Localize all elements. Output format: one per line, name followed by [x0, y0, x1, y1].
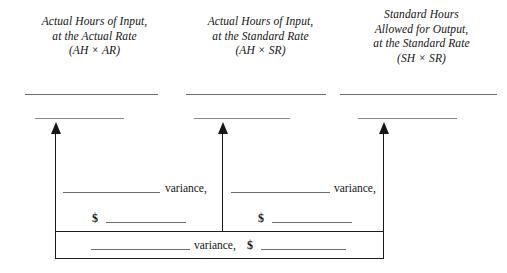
amount-blank-line-col1[interactable]: [35, 118, 124, 119]
arrow-shaft-col1: [55, 133, 56, 231]
total-variance-amount-blank[interactable]: [261, 249, 346, 250]
left-variance-label: variance,: [165, 182, 207, 195]
column-header-line: at the Standard Rate: [178, 29, 343, 44]
bracket-middle-divider: [55, 231, 384, 232]
column-header-actual-hours-actual-rate: Actual Hours of Input, at the Actual Rat…: [12, 14, 177, 58]
column-header-actual-hours-standard-rate: Actual Hours of Input, at the Standard R…: [178, 14, 343, 58]
column-header-line: Standard Hours: [339, 7, 504, 22]
left-variance-amount-blank[interactable]: [106, 222, 186, 223]
amount-blank-line-col2[interactable]: [194, 118, 290, 119]
right-variance-amount-blank[interactable]: [272, 222, 352, 223]
right-variance-name-blank[interactable]: [231, 192, 330, 193]
column-header-line: Allowed for Output,: [339, 22, 504, 37]
column-header-line: (SH × SR): [339, 51, 504, 66]
total-variance-label: variance,: [194, 239, 236, 252]
arrow-shaft-col2: [222, 133, 223, 231]
column-header-line: (AH × AR): [12, 43, 177, 58]
header-underline-col2: [186, 94, 326, 95]
column-header-line: at the Standard Rate: [339, 36, 504, 51]
arrow-shaft-col3: [383, 133, 384, 231]
column-header-standard-hours-standard-rate: Standard Hours Allowed for Output, at th…: [339, 7, 504, 65]
column-header-line: at the Actual Rate: [12, 29, 177, 44]
column-header-line: Actual Hours of Input,: [178, 14, 343, 29]
bracket-right-edge: [383, 231, 384, 259]
total-variance-name-blank[interactable]: [91, 249, 190, 250]
right-variance-currency-symbol: $: [258, 211, 264, 226]
left-variance-name-blank[interactable]: [63, 192, 160, 193]
total-variance-currency-symbol: $: [247, 238, 253, 253]
bracket-left-edge: [55, 231, 56, 259]
header-underline-col1: [25, 94, 158, 95]
bracket-bottom-edge: [55, 258, 384, 259]
amount-blank-line-col3[interactable]: [358, 118, 457, 119]
variance-analysis-diagram: Actual Hours of Input, at the Actual Rat…: [0, 0, 507, 273]
left-variance-currency-symbol: $: [92, 211, 98, 226]
column-header-line: (AH × SR): [178, 43, 343, 58]
header-underline-col3: [340, 94, 497, 95]
right-variance-label: variance,: [334, 182, 376, 195]
column-header-line: Actual Hours of Input,: [12, 14, 177, 29]
